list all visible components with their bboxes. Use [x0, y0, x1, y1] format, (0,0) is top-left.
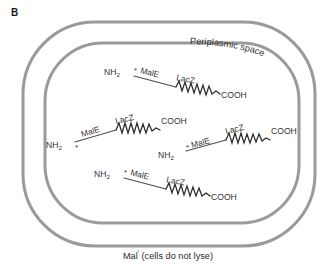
n-terminus-3: NH2 [158, 150, 174, 161]
c-terminus-2: COOH [161, 116, 187, 126]
figure-panel-b: B Periplasmic space NH2 * MalE LacZ [0, 0, 336, 276]
star-marker-4: * [124, 168, 127, 177]
bottom-caption: Mal′ (cells do not lyse) [0, 251, 336, 261]
n-terminus-4: NH2 [94, 169, 110, 180]
n-terminus-2: NH2 [46, 140, 62, 151]
bottom-caption-rest: (cells do not lyse) [139, 251, 213, 261]
fusion-protein-2: NH2 * MalE LacZ COOH [46, 112, 187, 152]
c-terminus-1: COOH [221, 90, 247, 100]
fusion-protein-1: NH2 * MalE LacZ COOH [104, 65, 247, 100]
n-terminus-1: NH2 [104, 67, 120, 78]
fusion-protein-4: NH2 * MalE LacZ COOH [94, 167, 237, 202]
male-label-3: MalE [190, 135, 211, 150]
star-marker-2: * [75, 143, 78, 152]
lacz-label-4: LacZ [166, 174, 186, 187]
male-label-4: MalE [130, 167, 151, 181]
periplasmic-space-text: Periplasmic space [190, 36, 266, 58]
periplasmic-space-label: Periplasmic space [190, 36, 266, 58]
fusion-protein-3: NH2 * MalE LacZ COOH [158, 122, 297, 161]
c-terminus-3: COOH [271, 126, 297, 136]
male-label-1: MalE [140, 65, 161, 79]
c-terminus-4: COOH [211, 192, 237, 202]
bottom-caption-main: Mal [123, 251, 138, 261]
cell-diagram: Periplasmic space NH2 * MalE LacZ COOH N… [0, 0, 336, 276]
lacz-label-1: LacZ [176, 72, 196, 85]
male-label-2: MalE [80, 124, 101, 139]
star-marker-3: * [186, 143, 189, 152]
star-marker-1: * [134, 66, 137, 75]
